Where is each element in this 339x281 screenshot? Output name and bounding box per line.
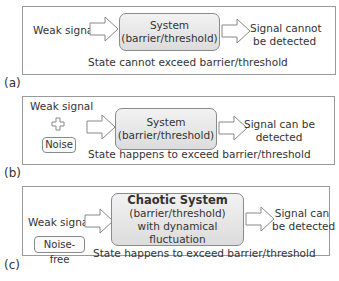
panel-c-input: Weak signal [28, 216, 91, 229]
system-title: System [120, 19, 219, 32]
arrow-right-icon [84, 208, 114, 234]
panel-a-label: (a) [4, 76, 21, 90]
panel-a-caption: State cannot exceed barrier/threshold [88, 56, 288, 69]
panel-c-label: (c) [4, 258, 20, 272]
output-line: be detected [250, 35, 322, 48]
panel-b-label: (b) [4, 166, 21, 180]
plus-icon [51, 117, 65, 131]
noise-free-box: Noise-free [34, 236, 85, 253]
arrow-right-icon [221, 18, 251, 44]
panel-b-input: Weak signal [30, 100, 93, 113]
panel-a-input: Weak signal [33, 24, 96, 37]
system-box: System (barrier/threshold) [115, 108, 217, 150]
output-line: Signal cannot [250, 22, 322, 35]
arrow-right-icon [86, 114, 116, 140]
system-subtitle: (barrier/threshold) [120, 32, 219, 45]
noise-box: Noise [42, 137, 76, 153]
output-line: Signal can be [244, 118, 314, 131]
system-subtitle: (barrier/threshold) [112, 207, 243, 220]
output-line: Signal can [272, 207, 332, 220]
system-box: System (barrier/threshold) [119, 13, 220, 51]
system-title: Chaotic System [112, 194, 243, 207]
system-title: System [116, 116, 216, 129]
panel-c-caption: State happens to exceed barrier/threshol… [93, 247, 316, 260]
panel-c-output: Signal can be detected [272, 207, 332, 233]
arrow-right-icon [245, 206, 275, 232]
arrow-right-icon [89, 16, 119, 42]
output-line: be detected [272, 220, 332, 233]
system-subtitle: with dynamical fluctuation [112, 220, 243, 246]
system-subtitle: (barrier/threshold) [116, 129, 216, 142]
panel-b-caption: State happens to exceed barrier/threshol… [88, 148, 311, 161]
output-line: detected [244, 131, 314, 144]
panel-b-output: Signal can be detected [244, 118, 314, 144]
panel-a-output: Signal cannot be detected [250, 22, 322, 48]
chaotic-system-box: Chaotic System (barrier/threshold) with … [111, 193, 244, 246]
